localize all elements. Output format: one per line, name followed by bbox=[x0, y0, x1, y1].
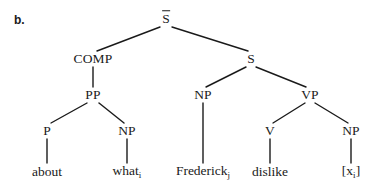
tree-edge-sbar-to-s bbox=[172, 27, 248, 51]
node-sbar: S bbox=[162, 10, 170, 26]
figure-item-label: b. bbox=[14, 14, 25, 26]
node-s: S bbox=[247, 52, 255, 66]
node-np-wh: NP bbox=[118, 124, 136, 138]
terminal-what: whati bbox=[113, 164, 142, 180]
tree-edge-pp-to-p bbox=[51, 103, 87, 123]
node-pp: PP bbox=[85, 88, 100, 102]
node-np-object: NP bbox=[342, 124, 360, 138]
node-p: P bbox=[43, 124, 51, 138]
tree-edge-vp-to-v bbox=[273, 103, 305, 123]
syntax-tree-figure: b. S COMP S PP NP VP P NP V NP about wha… bbox=[0, 0, 375, 189]
node-np-subject: NP bbox=[194, 88, 212, 102]
terminal-dislike: dislike bbox=[252, 165, 288, 179]
index-subscript-i: i bbox=[139, 170, 142, 180]
tree-edge-s-to-vp bbox=[256, 67, 306, 87]
node-v: V bbox=[265, 124, 275, 138]
node-comp: COMP bbox=[73, 52, 112, 66]
index-subscript-j: j bbox=[228, 170, 231, 180]
node-vp: VP bbox=[301, 88, 319, 102]
terminal-trace: [xi] bbox=[342, 164, 360, 180]
tree-edge-sbar-to-comp bbox=[97, 27, 160, 51]
tree-edge-pp-to-np-wh bbox=[99, 103, 124, 123]
tree-edge-vp-to-np-object bbox=[315, 103, 348, 123]
terminal-about: about bbox=[32, 165, 62, 179]
tree-edge-s-to-np-subject bbox=[206, 67, 246, 87]
terminal-frederick: Frederickj bbox=[176, 164, 230, 180]
